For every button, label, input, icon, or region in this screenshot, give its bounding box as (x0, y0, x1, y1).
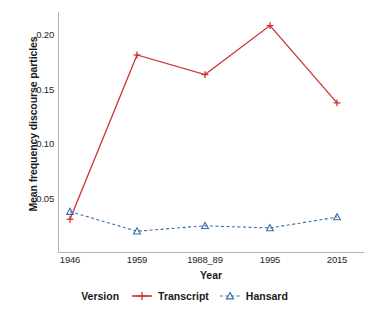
triangle-marker-icon (219, 290, 241, 302)
legend-entry-hansard[interactable]: Hansard (219, 290, 288, 302)
x-axis-tick-labels: 194619591988_8919952015 (58, 254, 364, 270)
x-tick-label: 1946 (35, 254, 105, 265)
plus-marker-icon (131, 290, 153, 302)
data-point-marker (67, 208, 74, 214)
series-line-transcript (70, 26, 337, 220)
legend-entry-transcript[interactable]: Transcript (131, 290, 209, 302)
legend-label: Transcript (158, 290, 209, 302)
legend-label: Hansard (246, 290, 288, 302)
x-tick-label: 1995 (235, 254, 305, 265)
y-tick-label: 0.05 (20, 193, 54, 204)
y-tick-label: 0.10 (20, 138, 54, 149)
x-tick-label: 1959 (102, 254, 172, 265)
legend-title: Version (81, 290, 119, 302)
data-point-marker (138, 292, 146, 300)
line-chart: Mean frequency discourse particles 0.050… (0, 0, 369, 317)
legend: Version TranscriptHansard (0, 290, 369, 302)
x-tick-label: 1988_89 (170, 254, 240, 265)
y-tick-label: 0.15 (20, 84, 54, 95)
x-tick-label: 2015 (302, 254, 369, 265)
plot-series-svg (58, 12, 364, 253)
data-point-marker (134, 52, 141, 59)
plot-area (58, 12, 364, 252)
data-point-marker (334, 214, 341, 220)
data-point-marker (67, 216, 74, 223)
y-tick-label: 0.20 (20, 29, 54, 40)
y-axis-tick-labels: 0.050.100.150.20 (18, 0, 54, 317)
x-axis-title: Year (58, 269, 364, 281)
